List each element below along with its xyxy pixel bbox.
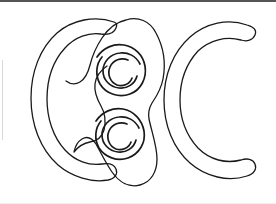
drawing-canvas xyxy=(0,0,276,204)
upper-spiral-inner-arc xyxy=(109,59,132,86)
right-crescent-outline xyxy=(164,22,256,179)
left-crescent-outline xyxy=(31,19,117,181)
right-crescent xyxy=(164,22,256,179)
lower-spiral-inner-arc xyxy=(108,123,131,150)
left-crescent xyxy=(31,19,117,181)
line-art-illustration xyxy=(0,0,276,204)
upper-spiral xyxy=(97,45,146,96)
